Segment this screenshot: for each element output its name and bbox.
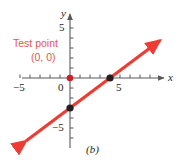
figure-container: −5 0 5 5 −5 x y Test point (0, 0) (b) — [0, 0, 180, 166]
figure-caption: (b) — [86, 144, 99, 155]
x-axis-label: x — [168, 72, 173, 83]
y-axis-label: y — [61, 8, 66, 19]
point-y-intercept — [66, 104, 73, 111]
x-tick-label-pos5: 5 — [116, 82, 122, 93]
x-axis — [20, 75, 164, 79]
x-tick-label-neg5: −5 — [13, 82, 25, 93]
point-x-intercept — [106, 74, 113, 81]
test-point-annotation-line1: Test point — [13, 38, 58, 49]
test-point-annotation-line2: (0, 0) — [31, 52, 56, 63]
point-test-point — [67, 75, 74, 82]
x-tick-label-zero: 0 — [58, 82, 64, 93]
y-tick-label-pos5: 5 — [59, 22, 65, 33]
coordinate-plane-graph — [0, 0, 180, 166]
y-tick-label-neg5: −5 — [52, 122, 64, 133]
